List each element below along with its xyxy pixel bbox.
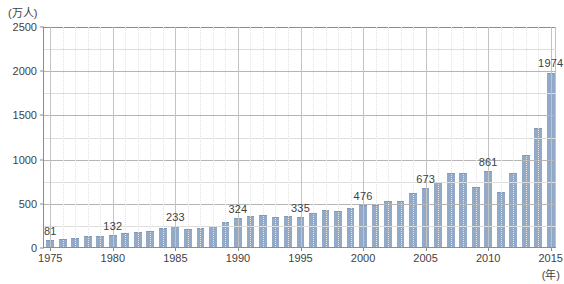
y-axis-tick-mark [40, 27, 44, 28]
x-axis-tick-label: 2005 [413, 252, 437, 264]
gridline-vertical-minor [288, 27, 289, 247]
x-axis-tick-label: 1995 [288, 252, 312, 264]
y-axis-tick-label: 1000 [13, 154, 37, 166]
bar-value-label: 335 [291, 202, 310, 214]
x-axis-tick-mark [488, 247, 489, 251]
gridline-vertical-minor [250, 27, 251, 247]
x-axis-tick-label: 2000 [351, 252, 375, 264]
x-axis-tick-mark [363, 247, 364, 251]
plot-inner: 0500100015002000250081132233324335476673… [44, 27, 556, 247]
gridline-vertical [113, 27, 114, 247]
gridline-vertical-minor [401, 27, 402, 247]
gridline-vertical-minor [100, 27, 101, 247]
y-axis-tick-mark [40, 203, 44, 204]
x-axis-tick-label: 1985 [163, 252, 187, 264]
x-axis-tick-label: 1975 [38, 252, 62, 264]
gridline-vertical-minor [463, 27, 464, 247]
gridline-vertical-minor [213, 27, 214, 247]
gridline-vertical-minor [188, 27, 189, 247]
x-axis-tick-mark [426, 247, 427, 251]
bar-value-label: 132 [103, 220, 122, 232]
gridline-vertical-minor [526, 27, 527, 247]
x-axis-tick-label: 2010 [476, 252, 500, 264]
gridline-vertical [426, 27, 427, 247]
gridline-vertical-minor [501, 27, 502, 247]
gridline-vertical-minor [326, 27, 327, 247]
plot-area: 0500100015002000250081132233324335476673… [43, 27, 556, 248]
y-axis-tick-label: 0 [31, 242, 37, 254]
x-axis-tick-label: 1980 [101, 252, 125, 264]
gridline-vertical-minor [163, 27, 164, 247]
gridline-vertical-minor [263, 27, 264, 247]
y-axis-unit-label: (万人) [8, 4, 37, 20]
x-axis-tick-mark [113, 247, 114, 251]
x-axis-tick-label: 1990 [226, 252, 250, 264]
gridline-vertical [488, 27, 489, 247]
gridline-vertical-minor [438, 27, 439, 247]
y-axis-tick-mark [40, 115, 44, 116]
x-axis-tick-mark [175, 247, 176, 251]
y-axis-tick-mark [40, 159, 44, 160]
gridline-vertical-minor [63, 27, 64, 247]
gridline-vertical-minor [376, 27, 377, 247]
x-axis-tick-mark [301, 247, 302, 251]
gridline-vertical-minor [75, 27, 76, 247]
bar-value-label: 861 [479, 156, 498, 168]
y-axis-tick-label: 2500 [13, 21, 37, 33]
gridline-vertical-minor [275, 27, 276, 247]
bar-value-label: 233 [166, 211, 185, 223]
bar-chart: (万人) 05001000150020002500811322333243354… [0, 0, 564, 284]
gridline-vertical-minor [225, 27, 226, 247]
gridline-vertical-minor [388, 27, 389, 247]
bar-value-label: 81 [44, 225, 57, 237]
bar-value-label: 673 [416, 173, 435, 185]
y-axis-tick-mark [40, 248, 44, 249]
bar-value-label: 324 [228, 203, 247, 215]
gridline-vertical-minor [313, 27, 314, 247]
gridline-vertical-minor [150, 27, 151, 247]
gridline-vertical-minor [88, 27, 89, 247]
x-axis-tick-mark [50, 247, 51, 251]
gridline-vertical-minor [451, 27, 452, 247]
gridline-vertical-minor [351, 27, 352, 247]
gridline-vertical-minor [338, 27, 339, 247]
x-axis-tick-mark [238, 247, 239, 251]
gridline-vertical-minor [476, 27, 477, 247]
gridline-vertical-minor [125, 27, 126, 247]
x-axis-tick-mark [551, 247, 552, 251]
y-axis-tick-label: 500 [19, 198, 37, 210]
gridline-vertical [363, 27, 364, 247]
y-axis-tick-label: 1500 [13, 109, 37, 121]
gridline-vertical-minor [513, 27, 514, 247]
gridline-vertical-minor [413, 27, 414, 247]
gridline-vertical-minor [138, 27, 139, 247]
gridline-vertical-minor [200, 27, 201, 247]
y-axis-tick-label: 2000 [13, 65, 37, 77]
bar-value-label: 476 [354, 190, 373, 202]
x-axis-unit-label: (年) [542, 266, 560, 282]
bar-value-label: 1974 [538, 57, 563, 69]
gridline-vertical [50, 27, 51, 247]
x-axis-tick-label: 2015 [538, 252, 562, 264]
y-axis-tick-mark [40, 71, 44, 72]
